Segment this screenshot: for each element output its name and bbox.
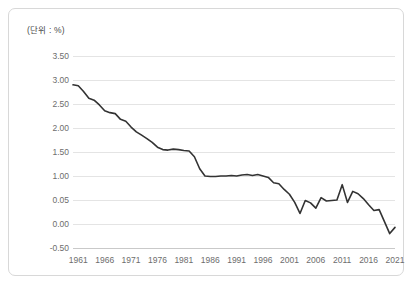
- x-tick-label: 2006: [306, 255, 325, 265]
- chart-card: (단위 : %) 3.503.002.502.001.501.000.050.0…: [8, 8, 404, 276]
- x-tick-label: 1986: [201, 255, 220, 265]
- y-tick-label: 2.00: [17, 123, 69, 133]
- x-tick-label: 2021: [386, 255, 405, 265]
- line-series: [73, 56, 395, 248]
- gridline--0.50: [73, 248, 395, 249]
- y-tick-label: 1.50: [17, 147, 69, 157]
- x-tick-label: 2011: [333, 255, 351, 265]
- x-tick-label: 1996: [254, 255, 273, 265]
- x-tick-label: 1961: [69, 255, 88, 265]
- x-tick-label: 2001: [280, 255, 299, 265]
- y-tick-label: 3.50: [17, 51, 69, 61]
- plot-area: [73, 56, 395, 248]
- y-tick-label: 0.00: [17, 219, 69, 229]
- unit-label: (단위 : %): [27, 23, 65, 35]
- y-axis-labels: 3.503.002.502.001.501.000.050.00-0.50: [13, 56, 69, 248]
- y-tick-label: -0.50: [17, 243, 69, 253]
- x-tick-label: 1966: [95, 255, 114, 265]
- y-tick-label: 2.50: [17, 99, 69, 109]
- x-tick-label: 2016: [359, 255, 378, 265]
- population-growth-line: [73, 85, 395, 234]
- x-tick-label: 1971: [122, 255, 141, 265]
- x-axis-labels: 1961196619711976198119861991199620012006…: [73, 255, 395, 271]
- x-tick-label: 1976: [148, 255, 167, 265]
- y-tick-label: 0.05: [17, 195, 69, 205]
- y-tick-label: 3.00: [17, 75, 69, 85]
- y-tick-label: 1.00: [17, 171, 69, 181]
- x-tick-label: 1991: [227, 255, 246, 265]
- x-tick-label: 1981: [174, 255, 193, 265]
